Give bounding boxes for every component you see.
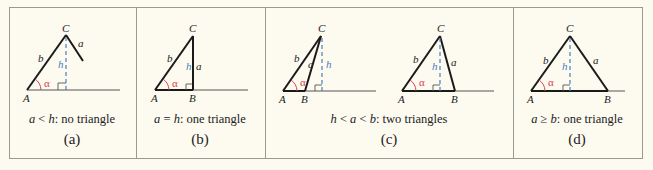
panel-label-b: (b): [191, 131, 209, 148]
height-h-label: h: [58, 58, 64, 70]
side-b-label: b: [167, 52, 173, 64]
panel-c-diagram-left: α A B C b a h: [278, 22, 376, 105]
angle-alpha-arc: [539, 80, 545, 91]
side-b-label: b: [38, 52, 44, 64]
caption-b: a = h: one triangle: [154, 112, 246, 127]
side-a-label: a: [451, 56, 457, 68]
angle-alpha-arc: [163, 79, 169, 90]
vertex-C: C: [566, 22, 574, 34]
panel-label-a: (a): [64, 131, 81, 148]
height-h-label: h: [186, 60, 192, 72]
angle-alpha-arc: [291, 80, 297, 91]
caption-d: a ≥ b: one triangle: [531, 112, 623, 127]
vertex-B: B: [189, 92, 196, 104]
side-a: [570, 36, 608, 91]
panel-label-d: (d): [568, 131, 586, 148]
vertex-C: C: [437, 22, 445, 34]
height-h-label: h: [562, 60, 568, 72]
angle-alpha-arc: [410, 80, 416, 91]
side-a-label: a: [78, 37, 84, 49]
panel-d-diagram: α A B C b a h: [526, 22, 625, 105]
panel-b-diagram: α A B C b a h: [150, 22, 248, 104]
side-b-label: b: [294, 52, 300, 64]
side-a-label: a: [593, 54, 599, 66]
panel-c-diagram-right: α A B C b a h: [397, 22, 494, 105]
vertex-A: A: [526, 93, 534, 105]
angle-alpha-label: α: [419, 76, 425, 88]
panel-a-diagram: α A C b a h: [22, 22, 120, 104]
vertex-B: B: [301, 93, 308, 105]
angle-alpha-label: α: [172, 77, 178, 89]
vertex-C: C: [62, 22, 70, 34]
vertex-C: C: [318, 22, 326, 34]
side-b-label: b: [413, 53, 419, 65]
side-a-label: a: [196, 60, 202, 72]
vertex-A: A: [278, 93, 286, 105]
angle-alpha-label: α: [548, 76, 554, 88]
vertex-C: C: [189, 22, 197, 34]
angle-alpha-label: α: [300, 76, 306, 88]
caption-a: a < h: no triangle: [29, 112, 115, 127]
side-a-label: a: [308, 58, 314, 70]
vertex-A: A: [150, 92, 158, 104]
vertex-A: A: [397, 93, 405, 105]
vertex-B: B: [451, 93, 458, 105]
right-angle-mark: [315, 85, 322, 91]
angle-alpha-label: α: [44, 77, 50, 89]
height-h-label: h: [326, 58, 332, 70]
right-angle-mark: [58, 83, 66, 90]
panel-label-c: (c): [381, 131, 398, 148]
vertex-B: B: [604, 93, 611, 105]
caption-c: h < a < b: two triangles: [331, 112, 448, 127]
height-h-label: h: [432, 60, 438, 72]
side-b-label: b: [543, 54, 549, 66]
ambiguous-case-figure: α A C b a h α A B C b a h: [0, 0, 653, 170]
angle-alpha-arc: [35, 79, 41, 90]
vertex-A: A: [22, 92, 30, 104]
